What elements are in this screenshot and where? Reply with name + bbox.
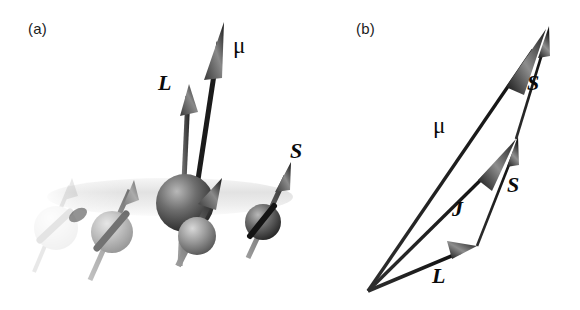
panel-b-graphics	[0, 0, 580, 310]
panel-b-label-S-upper: S	[527, 72, 539, 94]
panel-b-label-S-lower: S	[507, 174, 519, 196]
panel-b-label: (b)	[356, 20, 375, 37]
panel-b-label-L: L	[432, 265, 445, 287]
panel-b-label-J: J	[452, 198, 463, 220]
figure-canvas: (a) L μ S	[0, 0, 580, 310]
vector-L-head	[447, 241, 477, 259]
panel-b-label-mu: μ	[433, 114, 445, 137]
